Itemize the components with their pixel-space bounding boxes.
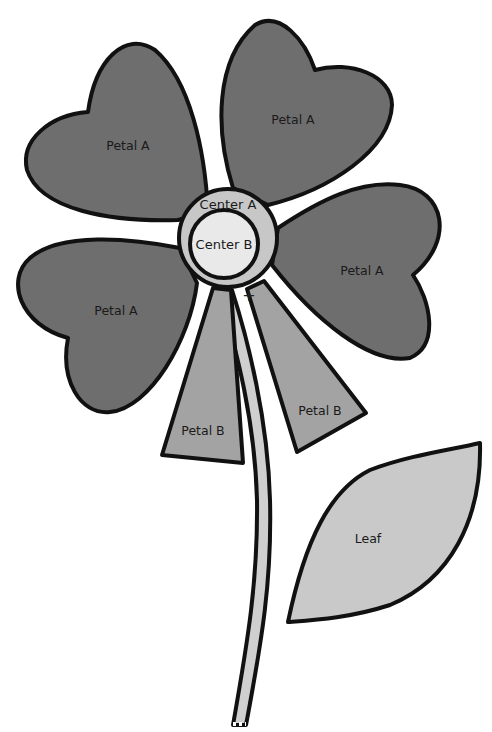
petal-a-lower-left-label: Petal A	[94, 303, 138, 318]
petal-a-right-label: Petal A	[340, 263, 384, 278]
petal-a-upper-right: Petal A	[221, 21, 392, 205]
center-b-label: Center B	[196, 237, 253, 252]
petal-a-upper-right-label: Petal A	[271, 112, 315, 127]
petal-b-right-label: Petal B	[298, 403, 341, 418]
petal-a-lower-left: Petal A	[18, 239, 197, 412]
petal-b-left-label: Petal B	[181, 423, 224, 438]
leaf: Leaf	[288, 443, 480, 622]
petal-a-upper-left: Petal A	[26, 44, 208, 220]
center-b: Center B	[190, 210, 258, 278]
registration-mark-icon: +	[242, 286, 255, 305]
petal-a-upper-left-label: Petal A	[106, 138, 150, 153]
leaf-label: Leaf	[355, 531, 382, 546]
flower-diagram: Leaf Petal B Petal B Petal A Petal A Pet…	[0, 0, 492, 732]
